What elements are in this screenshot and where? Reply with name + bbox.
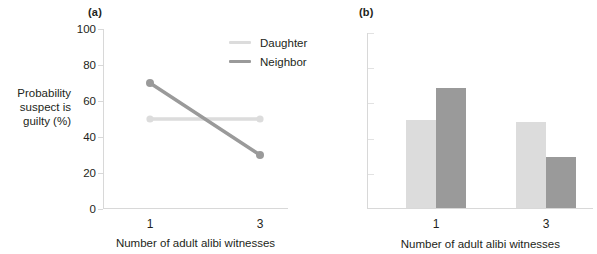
panel-b-plot-area: 1 3 Number of adult alibi witnesses: [367, 33, 585, 209]
panel-b-y-axis-line: [367, 33, 368, 209]
legend-line-daughter-icon: [229, 41, 251, 44]
panel-a-ytick-label-100: 100: [77, 23, 96, 35]
panel-a-label: (a): [88, 6, 102, 18]
panel-b-label: (b): [359, 6, 374, 18]
panel-a-marker-neighbor-3: [256, 151, 264, 159]
panel-a-xtick-label-1: 1: [147, 217, 154, 231]
panel-a-ytick-label-0: 0: [90, 203, 96, 215]
panel-a-ytick-label-60: 60: [83, 95, 96, 107]
panel-b-bar-neighbor-3: [546, 157, 576, 208]
panel-a-legend-label-daughter: Daughter: [260, 37, 307, 49]
y-axis-title-line-1: Probability: [3, 86, 71, 100]
panel-a-legend-item-neighbor: Neighbor: [229, 52, 307, 71]
panel-b-xtick-label-3: 3: [543, 217, 550, 231]
panel-a-marker-neighbor-1: [146, 79, 154, 87]
panel-a-legend-item-daughter: Daughter: [229, 33, 307, 52]
panel-a-marker-daughter-3: [256, 115, 263, 122]
panel-a-x-axis-title: Number of adult alibi witnesses: [116, 237, 275, 249]
panel-a-ytick-0: [98, 209, 103, 210]
panel-b-x-axis-line: [367, 208, 593, 209]
panel-b-ytick-60: [368, 103, 374, 104]
panel-a-ytick-label-40: 40: [83, 131, 96, 143]
panel-a-y-axis-title: Probability suspect is guilty (%): [3, 86, 71, 128]
panel-b-bar-chart: (b) 1 3 Number of adult alibi witnesses: [330, 0, 597, 254]
panel-a-ytick-label-80: 80: [83, 59, 96, 71]
panel-b-ytick-80: [368, 68, 374, 69]
figure-two-panel-chart: (a) Probability suspect is guilty (%) 0 …: [0, 0, 597, 254]
y-axis-title-line-2: suspect is: [3, 100, 71, 114]
panel-b-xtick-label-1: 1: [433, 217, 440, 231]
panel-b-bar-daughter-3: [516, 122, 546, 208]
panel-a-legend: Daughter Neighbor: [229, 33, 307, 71]
legend-line-neighbor-icon: [229, 60, 251, 63]
panel-a-marker-daughter-1: [146, 115, 153, 122]
panel-a-legend-label-neighbor: Neighbor: [260, 56, 307, 68]
panel-a-ytick-label-20: 20: [83, 167, 96, 179]
panel-b-ytick-40: [368, 139, 374, 140]
panel-b-ytick-100: [368, 33, 374, 34]
panel-b-bar-neighbor-1: [436, 88, 466, 208]
panel-b-ytick-20: [368, 174, 374, 175]
panel-b-x-axis-title: Number of adult alibi witnesses: [401, 238, 560, 250]
panel-a-xtick-label-3: 3: [257, 217, 264, 231]
panel-a-line-chart: (a) Probability suspect is guilty (%) 0 …: [0, 0, 330, 254]
panel-b-bar-daughter-1: [406, 120, 436, 208]
y-axis-title-line-3: guilty (%): [3, 114, 71, 128]
